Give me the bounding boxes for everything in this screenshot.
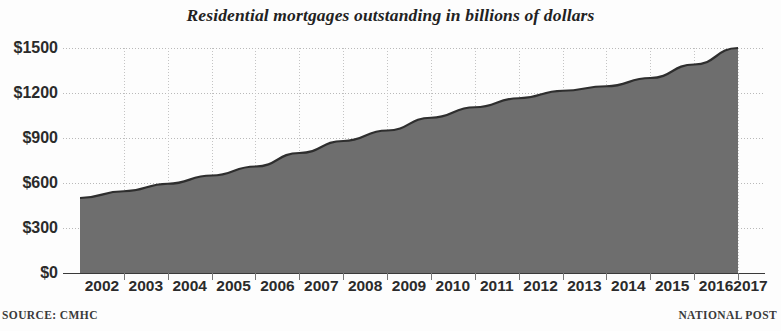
- plot-area: [63, 48, 765, 273]
- x-tick-label: 2004: [172, 277, 206, 295]
- brand-note: NATIONAL POST: [678, 309, 777, 321]
- x-tick-label: 2012: [523, 277, 557, 295]
- x-tick-label: 2014: [611, 277, 645, 295]
- x-axis-tick-labels: 2002200320042005200620072008200920102011…: [63, 277, 765, 299]
- x-tick-label: 2002: [85, 277, 119, 295]
- x-tick-label: 2007: [304, 277, 338, 295]
- x-tick-label: 2008: [348, 277, 382, 295]
- x-tick-label: 2011: [480, 277, 514, 295]
- x-tick-label: 2009: [392, 277, 426, 295]
- y-tick-label: $900: [0, 129, 58, 147]
- y-axis-tick-labels: $0$300$600$900$1200$1500: [0, 48, 58, 273]
- x-tick-label: 2016: [699, 277, 733, 295]
- x-tick-label: 2015: [655, 277, 689, 295]
- area-series-residential-mortgages: [63, 48, 765, 273]
- x-tick-label: 2013: [567, 277, 601, 295]
- x-tick-label: 2006: [260, 277, 294, 295]
- chart-title: Residential mortgages outstanding in bil…: [0, 5, 781, 26]
- y-tick-label: $300: [0, 219, 58, 237]
- area-fill-path: [80, 48, 738, 273]
- x-tick-label: 2010: [436, 277, 470, 295]
- source-note: SOURCE: CMHC: [2, 309, 98, 321]
- x-tick-label: 2017: [733, 277, 767, 295]
- x-tick-label: 2005: [216, 277, 250, 295]
- x-tick-label: 2003: [129, 277, 163, 295]
- y-tick-label: $1200: [0, 84, 58, 102]
- y-tick-label: $600: [0, 174, 58, 192]
- y-tick-label: $1500: [0, 39, 58, 57]
- y-tick-label: $0: [0, 264, 58, 282]
- chart-footer: SOURCE: CMHC NATIONAL POST: [0, 309, 781, 331]
- chart-figure: Residential mortgages outstanding in bil…: [0, 0, 781, 331]
